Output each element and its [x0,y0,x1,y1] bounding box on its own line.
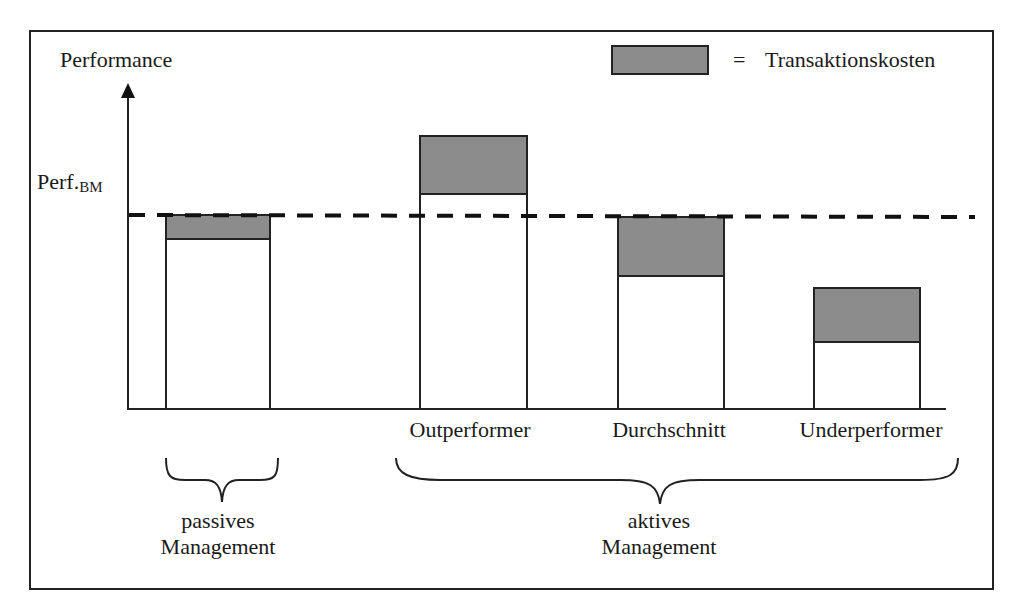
bar-label-outperformer: Outperformer [410,418,531,442]
benchmark-dashed-line [129,215,975,217]
legend-swatch-transaction-costs [611,45,709,75]
y-axis-label: Performance [60,48,172,72]
group-label-active-line2: Management [602,535,717,559]
diagram-canvas [0,0,1015,616]
y-axis-arrow-icon [121,83,135,98]
bar-outperformer [420,136,527,409]
bar-passives-management [166,215,270,409]
brace-aktives-management [396,458,958,504]
bar-underperformer [814,288,920,409]
brace-passives-management [166,458,278,502]
bar-label-durchschnitt: Durchschnitt [612,418,726,442]
group-label-active-line1: aktives [628,509,690,533]
group-label-passive-line2: Management [161,535,276,559]
bar-durchschnitt [618,217,724,409]
legend-equals: = [733,48,745,72]
legend-label: Transaktionskosten [765,48,935,72]
bar-label-underperformer: Underperformer [800,418,943,442]
benchmark-label-main: Perf. [37,169,79,194]
benchmark-label-subscript: BM [79,179,102,195]
benchmark-label: Perf.BM [37,170,103,199]
group-label-passive-line1: passives [181,509,254,533]
